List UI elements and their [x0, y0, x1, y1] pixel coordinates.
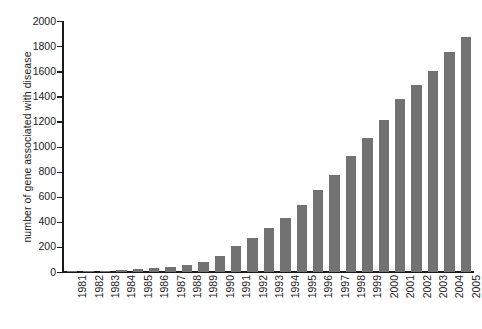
x-axis-tick-label: 2005	[471, 275, 482, 321]
y-axis-tick-mark	[57, 272, 62, 273]
y-axis-tick-label: 1200	[20, 116, 56, 127]
y-axis-tick-label: 200	[20, 241, 56, 252]
y-axis-tick-label: 1000	[20, 141, 56, 152]
x-axis-tick-label: 1989	[208, 275, 219, 321]
bar-slot	[329, 21, 339, 272]
x-axis-tick-label: 2001	[405, 275, 416, 321]
bar	[67, 271, 77, 272]
bar-slot	[165, 21, 175, 272]
bar-slot	[313, 21, 323, 272]
x-axis-tick-label: 1996	[323, 275, 334, 321]
y-axis-tick-mark	[57, 71, 62, 72]
bar	[411, 85, 421, 272]
x-axis-tick-label: 1995	[307, 275, 318, 321]
y-axis-tick-mark	[57, 121, 62, 122]
x-axis-tick-label: 1993	[274, 275, 285, 321]
bar	[297, 205, 307, 272]
bar-slot	[264, 21, 274, 272]
x-axis-tick-label: 2004	[454, 275, 465, 321]
y-axis-tick-mark	[57, 197, 62, 198]
y-axis-tick-mark	[57, 172, 62, 173]
bar-slot	[444, 21, 454, 272]
bar-slot	[67, 21, 77, 272]
bar	[83, 271, 93, 272]
bar	[444, 52, 454, 272]
bar-slot	[362, 21, 372, 272]
x-axis-tick-label: 1994	[290, 275, 301, 321]
x-axis-tick-label: 1981	[77, 275, 88, 321]
bar-slot	[280, 21, 290, 272]
bar-slot	[346, 21, 356, 272]
y-axis-tick-mark	[57, 247, 62, 248]
bar	[215, 256, 225, 272]
bar	[428, 71, 438, 272]
bar-slot	[395, 21, 405, 272]
bar	[395, 99, 405, 272]
y-axis-tick-label: 1400	[20, 91, 56, 102]
bar-slot	[100, 21, 110, 272]
x-axis-tick-label: 2003	[438, 275, 449, 321]
x-axis-tick-label: 1992	[258, 275, 269, 321]
x-axis-tick-label: 1984	[126, 275, 137, 321]
x-axis-tick-label: 1998	[356, 275, 367, 321]
bar	[362, 138, 372, 272]
bar-slot	[461, 21, 471, 272]
y-axis-tick-label: 400	[20, 216, 56, 227]
bar-slot	[247, 21, 257, 272]
y-axis-tick-label: 1800	[20, 41, 56, 52]
bar	[198, 262, 208, 272]
x-axis-tick-label: 1997	[340, 275, 351, 321]
bar	[100, 271, 110, 273]
x-axis-tick-label: 1991	[241, 275, 252, 321]
y-axis-tick-label: 2000	[20, 16, 56, 27]
bar	[149, 268, 159, 272]
bar	[231, 246, 241, 272]
bar	[329, 175, 339, 272]
bar	[165, 267, 175, 272]
bar-slot	[149, 21, 159, 272]
x-axis-tick-label: 1985	[143, 275, 154, 321]
bar-slot	[411, 21, 421, 272]
y-axis-tick-mark	[57, 222, 62, 223]
bar	[264, 228, 274, 272]
bar	[247, 238, 257, 273]
bar-slot	[198, 21, 208, 272]
bar	[182, 265, 192, 272]
x-axis-tick-label: 1999	[372, 275, 383, 321]
bar-slot	[133, 21, 143, 272]
bar	[313, 190, 323, 272]
bar	[133, 269, 143, 272]
y-axis-tick-label: 1600	[20, 66, 56, 77]
bar	[379, 120, 389, 272]
bar	[116, 270, 126, 272]
bar-slot	[379, 21, 389, 272]
plot-area	[64, 21, 474, 272]
x-axis-tick-label: 1988	[192, 275, 203, 321]
x-axis-tick-label-group: 1981198219831984198519861987198819891990…	[64, 273, 474, 329]
bar	[280, 218, 290, 272]
x-axis-tick-label: 1990	[225, 275, 236, 321]
y-axis-tick-mark	[57, 21, 62, 22]
bar	[346, 156, 356, 272]
y-axis-tick-label-group: 0200400600800100012001400160018002000	[20, 0, 56, 329]
y-axis-tick-mark	[57, 46, 62, 47]
y-axis-tick-mark	[57, 96, 62, 97]
y-axis-tick-label: 600	[20, 191, 56, 202]
bar	[461, 37, 471, 272]
bar-slot	[297, 21, 307, 272]
bar-slot	[83, 21, 93, 272]
bar-slot	[428, 21, 438, 272]
bar-chart-figure: number of gene associated with disease 0…	[0, 0, 482, 329]
x-axis-tick-label: 2000	[389, 275, 400, 321]
bar-slot	[116, 21, 126, 272]
y-axis-tick-label: 800	[20, 166, 56, 177]
y-axis-tick-label: 0	[20, 267, 56, 278]
x-axis-tick-label: 1986	[159, 275, 170, 321]
x-axis-tick-label: 1987	[176, 275, 187, 321]
bar-slot	[231, 21, 241, 272]
x-axis-tick-label: 2002	[422, 275, 433, 321]
y-axis-tick-mark	[57, 147, 62, 148]
x-axis-tick-label: 1982	[94, 275, 105, 321]
bar-slot	[182, 21, 192, 272]
x-axis-tick-label: 1983	[110, 275, 121, 321]
